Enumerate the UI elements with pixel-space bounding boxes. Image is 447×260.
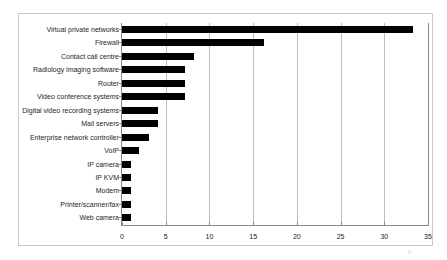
category-label: IP camera — [87, 158, 119, 171]
scan-artifact-mark: ρ — [408, 247, 412, 255]
x-tick-label-35: 35 — [424, 233, 432, 240]
bar — [122, 107, 158, 114]
x-tick-label-10: 10 — [206, 233, 214, 240]
bar — [122, 53, 194, 60]
bar — [122, 134, 149, 141]
bar-row: Mail servers — [122, 117, 428, 130]
category-label: Enterprise network controller — [30, 131, 119, 144]
category-label: Router — [98, 77, 119, 90]
bar-row: Radiology imaging software — [122, 63, 428, 76]
bar — [122, 147, 139, 154]
bar-row: Router — [122, 77, 428, 90]
x-tick-label-15: 15 — [249, 233, 257, 240]
bar — [122, 120, 158, 127]
chart-figure-frame: 05101520253035 Virtual private networksF… — [18, 13, 433, 246]
bar-row: Modem — [122, 184, 428, 197]
category-label: Firewall — [95, 36, 119, 49]
bar — [122, 201, 131, 208]
x-tick-label-30: 30 — [380, 233, 388, 240]
bar-row: Video conference systems — [122, 90, 428, 103]
bar-row: Virtual private networks — [122, 23, 428, 36]
bar-row: VoIP — [122, 144, 428, 157]
bar — [122, 174, 131, 181]
bar-row: IP KVM — [122, 171, 428, 184]
x-tick-label-25: 25 — [337, 233, 345, 240]
bar-row: Digital video recording systems — [122, 104, 428, 117]
gridline-35 — [428, 23, 429, 225]
category-label: Printer/scanner/fax — [60, 198, 119, 211]
bar — [122, 187, 131, 194]
category-label: Video conference systems — [37, 90, 119, 103]
bar-row: Printer/scanner/fax — [122, 198, 428, 211]
bar — [122, 93, 185, 100]
bar-row: Contact call centre — [122, 50, 428, 63]
bar-chart-plot-area: 05101520253035 Virtual private networksF… — [121, 23, 428, 226]
category-label: IP KVM — [95, 171, 119, 184]
x-tick-label-20: 20 — [293, 233, 301, 240]
category-label: Mail servers — [81, 117, 119, 130]
bar — [122, 39, 264, 46]
category-label: Radiology imaging software — [33, 63, 119, 76]
category-label: Contact call centre — [61, 50, 119, 63]
category-label: Virtual private networks — [46, 23, 119, 36]
bar — [122, 161, 131, 168]
bar — [122, 66, 185, 73]
bar-row: Web camera — [122, 211, 428, 224]
category-label: Web camera — [79, 211, 119, 224]
category-label: Digital video recording systems — [22, 104, 119, 117]
bar-row: Enterprise network controller — [122, 131, 428, 144]
x-tick-label-0: 0 — [120, 233, 124, 240]
bar — [122, 214, 131, 221]
bar-row: Firewall — [122, 36, 428, 49]
category-label: Modem — [96, 184, 119, 197]
category-label: VoIP — [104, 144, 119, 157]
x-tick-35 — [428, 222, 429, 226]
x-tick-label-5: 5 — [164, 233, 168, 240]
bar-row: IP camera — [122, 158, 428, 171]
bar — [122, 80, 185, 87]
bar — [122, 26, 413, 33]
